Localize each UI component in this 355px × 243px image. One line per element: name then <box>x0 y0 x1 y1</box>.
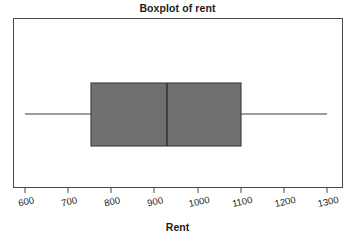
plot-graphics <box>0 0 355 243</box>
box-quartile-rect <box>91 83 241 146</box>
boxplot-figure: Boxplot of rent 600 700 800 900 1000 110… <box>0 0 355 243</box>
x-axis-ticks <box>25 188 327 193</box>
x-axis-title: Rent <box>0 221 355 233</box>
